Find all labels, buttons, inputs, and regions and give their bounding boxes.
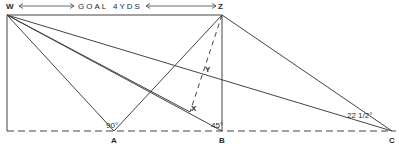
- goal-label: GOAL: [78, 2, 108, 11]
- line-w-c: [7, 15, 392, 131]
- point-a-label: A: [111, 136, 117, 145]
- line-z-x-dashed: [190, 15, 222, 112]
- angle-c-label: 22 1/2°: [347, 111, 372, 120]
- point-x-label: X: [191, 104, 197, 113]
- goal-angle-diagram: W GOAL 4YDS Z A B C X Y 90° 45° 22 1/2°: [0, 0, 399, 149]
- line-w-b: [7, 15, 222, 131]
- line-w-a: [7, 15, 114, 131]
- width-label: 4YDS: [113, 2, 142, 11]
- angle-b-label: 45°: [211, 121, 223, 130]
- point-y-label: Y: [205, 65, 211, 74]
- point-w-label: W: [6, 2, 14, 11]
- point-c-label: C: [389, 136, 395, 145]
- angle-a-label: 90°: [106, 121, 118, 130]
- point-b-label: B: [219, 136, 225, 145]
- point-z-label: Z: [218, 2, 223, 11]
